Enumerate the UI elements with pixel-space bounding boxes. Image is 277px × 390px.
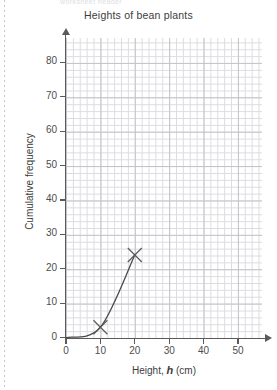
y-tick: [60, 131, 66, 132]
x-tick: [237, 338, 238, 344]
x-axis-arrow-icon: [265, 334, 272, 342]
major-gridlines: [66, 38, 262, 338]
x-tick: [134, 338, 135, 344]
y-tick-label: 10: [11, 296, 57, 307]
x-axis-title: Height, h (cm): [66, 364, 262, 376]
cropped-header-text: worksheet header: [60, 0, 275, 8]
x-tick-label: 40: [192, 345, 216, 356]
y-tick-label: 80: [11, 55, 57, 66]
y-tick: [60, 303, 66, 304]
y-tick: [60, 234, 66, 235]
y-axis-title: Cumulative frequency: [24, 87, 35, 277]
y-tick-label: 0: [11, 331, 57, 342]
x-tick-label: 30: [157, 345, 181, 356]
x-tick-label: 20: [123, 345, 147, 356]
plot-area: [66, 38, 262, 338]
x-tick-label: 10: [88, 345, 112, 356]
x-tick: [203, 338, 204, 344]
y-axis-arrow-icon: [62, 28, 70, 35]
x-tick: [100, 338, 101, 344]
y-tick: [60, 96, 66, 97]
x-tick: [169, 338, 170, 344]
x-axis-title-variable: h: [166, 364, 173, 376]
x-tick-label: 50: [226, 345, 250, 356]
y-tick: [60, 165, 66, 166]
y-tick: [60, 62, 66, 63]
y-axis-line: [65, 33, 66, 339]
x-axis-title-prefix: Height,: [132, 365, 164, 376]
y-tick: [60, 268, 66, 269]
x-tick-label: 0: [54, 345, 78, 356]
x-tick: [65, 338, 66, 344]
worksheet-page: worksheet header Heights of bean plants …: [0, 0, 277, 390]
y-tick: [60, 199, 66, 200]
x-axis-title-unit: (cm): [176, 365, 196, 376]
